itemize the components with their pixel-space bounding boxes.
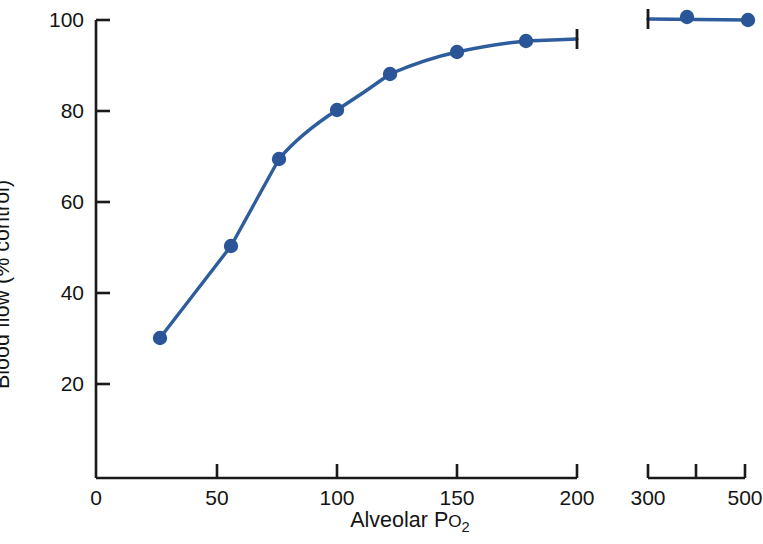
y-tick-label-20: 20: [24, 372, 84, 396]
data-point: [153, 331, 167, 345]
y-tick-label-60: 60: [24, 190, 84, 214]
y-tick-label-100: 100: [24, 8, 84, 32]
x-tick-label-300: 300: [630, 486, 665, 510]
data-point: [680, 10, 694, 24]
series-line-main: [160, 39, 577, 338]
x-axis-main-segment: [96, 464, 577, 478]
x-axis-title: Alveolar PO2: [350, 508, 470, 535]
data-series-main: [153, 29, 577, 345]
x-tick-label-500: 500: [727, 486, 762, 510]
x-tick-label-100: 100: [319, 486, 354, 510]
x-tick-label-200: 200: [559, 486, 594, 510]
x-axis-title-subscript: 2: [462, 519, 470, 535]
x-tick-label-150: 150: [439, 486, 474, 510]
x-axis-second-segment: [648, 464, 745, 478]
data-point: [383, 67, 397, 81]
data-point: [741, 13, 755, 27]
data-point: [450, 45, 464, 59]
x-axis-title-lead: Alveolar P: [350, 508, 448, 532]
data-point: [330, 103, 344, 117]
series-line-high-range: [648, 19, 748, 20]
y-tick-label-40: 40: [24, 281, 84, 305]
y-tick-label-80: 80: [24, 99, 84, 123]
data-series-high-range: [648, 9, 755, 29]
y-axis-title: Blood flow (% control): [0, 180, 15, 389]
y-axis: [96, 20, 110, 478]
data-point: [272, 152, 286, 166]
data-point: [224, 239, 238, 253]
x-tick-label-50: 50: [205, 486, 228, 510]
x-tick-label-0: 0: [90, 486, 102, 510]
x-axis-title-smallcap-o: O: [448, 511, 461, 531]
data-point: [519, 34, 533, 48]
